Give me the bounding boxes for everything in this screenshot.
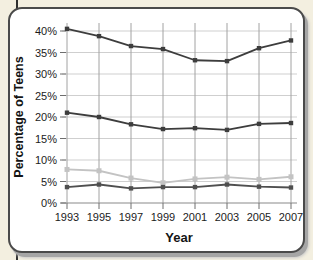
series-light-gray-marker: [289, 174, 294, 179]
series-dark-top-marker: [161, 47, 165, 51]
x-tick-label: 1999: [151, 211, 175, 223]
series-dark-top-marker: [289, 38, 293, 42]
series-dark-middle-marker: [65, 111, 69, 115]
x-tick-label: 2005: [247, 211, 271, 223]
series-light-gray-marker: [161, 180, 166, 185]
y-axis-title: Percentage of Teens: [12, 56, 26, 177]
x-axis-title: Year: [165, 230, 192, 245]
series-dark-top-marker: [97, 34, 101, 38]
y-tick-label: 25%: [35, 90, 57, 102]
y-tick-label: 35%: [35, 47, 57, 59]
series-gray-bottom-marker: [97, 182, 101, 186]
series-light-gray-marker: [225, 175, 230, 180]
series-dark-top-line: [67, 29, 291, 61]
y-tick-label: 30%: [35, 68, 57, 80]
series-dark-top-marker: [129, 44, 133, 48]
x-tick-label: 2003: [215, 211, 239, 223]
series-light-gray-marker: [65, 167, 70, 172]
x-tick-label: 2007: [279, 211, 303, 223]
y-tick-label: 15%: [35, 133, 57, 145]
series-gray-bottom-marker: [289, 185, 293, 189]
series-gray-bottom-marker: [129, 186, 133, 190]
x-tick-label: 2001: [183, 211, 207, 223]
series-light-gray-marker: [97, 168, 102, 173]
x-tick-label: 1995: [87, 211, 111, 223]
y-tick-label: 20%: [35, 111, 57, 123]
scanned-page-background: 0%5%10%15%20%25%30%35%40%199319951997199…: [0, 0, 313, 260]
series-dark-top-marker: [225, 59, 229, 63]
series-dark-middle-marker: [129, 122, 133, 126]
series-dark-middle-marker: [193, 126, 197, 130]
y-tick-label: 0%: [41, 197, 57, 209]
series-light-gray-marker: [257, 177, 262, 182]
series-gray-bottom-marker: [225, 182, 229, 186]
series-gray-bottom-marker: [161, 185, 165, 189]
series-dark-middle-marker: [289, 121, 293, 125]
series-dark-middle-marker: [257, 122, 261, 126]
series-light-gray-marker: [129, 176, 134, 181]
series-dark-top-marker: [193, 58, 197, 62]
x-tick-label: 1993: [55, 211, 79, 223]
y-tick-label: 5%: [41, 176, 57, 188]
y-tick-label: 40%: [35, 25, 57, 37]
y-tick-label: 10%: [35, 154, 57, 166]
series-dark-top-marker: [257, 46, 261, 50]
series-dark-middle-marker: [97, 115, 101, 119]
series-dark-middle-marker: [161, 127, 165, 131]
series-light-gray-marker: [193, 176, 198, 181]
series-gray-bottom-marker: [65, 185, 69, 189]
x-tick-label: 1997: [119, 211, 143, 223]
series-dark-middle-marker: [225, 128, 229, 132]
line-chart: 0%5%10%15%20%25%30%35%40%199319951997199…: [0, 0, 313, 260]
series-gray-bottom-marker: [257, 184, 261, 188]
series-gray-bottom-marker: [193, 185, 197, 189]
series-dark-top-marker: [65, 27, 69, 31]
